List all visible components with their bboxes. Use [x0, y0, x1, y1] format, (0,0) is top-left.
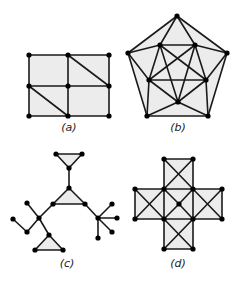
graph-vertex	[192, 42, 197, 47]
graph-vertex	[190, 216, 195, 221]
graph-vertex	[95, 235, 100, 240]
graph-a: (a)	[26, 52, 111, 134]
graph-vertex	[157, 42, 162, 47]
graph-vertex	[24, 200, 29, 205]
graph-c-faces	[35, 154, 85, 250]
graph-a-label: (a)	[61, 121, 76, 134]
graph-vertex	[106, 113, 111, 118]
graph-vertex	[224, 50, 229, 55]
graph-vertex	[79, 151, 84, 156]
graph-vertex	[109, 201, 114, 206]
graph-vertex	[26, 113, 31, 118]
graph-vertex	[66, 185, 71, 190]
graph-vertex	[161, 186, 166, 191]
graph-c-label: (c)	[60, 257, 75, 270]
graph-b: (b)	[125, 13, 229, 134]
graph-vertex	[109, 229, 114, 234]
graph-vertex	[46, 232, 51, 237]
graph-vertex	[50, 201, 55, 206]
graph-vertex	[66, 165, 71, 170]
graph-vertex	[26, 83, 31, 88]
graph-edge	[27, 218, 39, 232]
graph-vertex	[205, 113, 210, 118]
graph-edge	[98, 218, 112, 232]
graph-vertex	[175, 99, 180, 104]
graph-vertex	[10, 216, 15, 221]
graph-vertex	[32, 247, 37, 252]
graph-vertex	[125, 50, 130, 55]
graph-vertex	[146, 77, 151, 82]
graph-vertex	[26, 52, 31, 57]
graph-vertex	[132, 216, 137, 221]
graph-vertex	[174, 13, 179, 18]
graph-vertex	[219, 216, 224, 221]
graph-vertex	[65, 113, 70, 118]
graph-figure: (a) (b) (c) (d)	[0, 0, 245, 281]
graph-vertex	[60, 247, 65, 252]
graph-vertex	[190, 156, 195, 161]
graph-vertex	[144, 113, 149, 118]
graph-vertex	[24, 229, 29, 234]
graph-edge	[13, 219, 27, 232]
graph-edge	[39, 204, 53, 218]
graph-vertex	[95, 215, 100, 220]
graph-edge	[27, 203, 39, 218]
graph-vertex	[161, 216, 166, 221]
graph-edge	[98, 204, 112, 218]
graph-c: (c)	[10, 151, 119, 270]
graph-vertex	[65, 83, 70, 88]
graph-vertex	[203, 77, 208, 82]
graph-vertex	[190, 246, 195, 251]
graph-vertex	[161, 156, 166, 161]
graph-edge	[39, 218, 49, 235]
graph-vertex	[53, 151, 58, 156]
graph-vertex	[190, 186, 195, 191]
graph-d-label: (d)	[170, 257, 186, 270]
graph-vertex	[82, 201, 87, 206]
graph-vertex	[36, 215, 41, 220]
graph-vertex	[106, 83, 111, 88]
graph-vertex	[106, 52, 111, 57]
graph-edge	[85, 204, 98, 218]
graph-vertex	[176, 201, 181, 206]
graph-vertex	[132, 186, 137, 191]
graph-b-label: (b)	[170, 121, 186, 134]
graph-vertex	[219, 186, 224, 191]
graph-vertex	[114, 215, 119, 220]
graph-vertex	[65, 52, 70, 57]
graph-vertex	[161, 246, 166, 251]
graph-d: (d)	[132, 156, 224, 270]
